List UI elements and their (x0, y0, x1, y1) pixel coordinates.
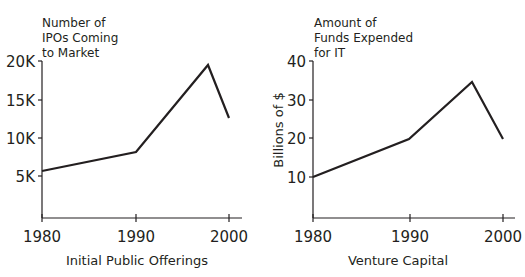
vc-xtick-1980: 1980 (294, 228, 332, 246)
ipo-chart: Number of IPOs Coming to Market 20K 15K … (6, 16, 248, 268)
vc-ytick-20: 20 (287, 130, 306, 148)
vc-data-line (313, 82, 503, 177)
ipo-xtick-1990: 1990 (117, 228, 155, 246)
ipo-ytick-20k: 20K (6, 53, 36, 71)
vc-xtick-1990: 1990 (391, 228, 429, 246)
ipo-y-ticks: 20K 15K 10K 5K (6, 53, 42, 186)
vc-chart-title-line-1: Amount of (314, 16, 377, 30)
vc-x-ticks: 1980 1990 2000 (294, 214, 522, 246)
vc-y-ticks: 40 30 20 10 (287, 53, 313, 187)
ipo-ytick-5k: 5K (16, 168, 37, 186)
vc-y-axis-label: Billions of $ (271, 92, 286, 167)
ipo-x-axis-label: Initial Public Offerings (66, 253, 208, 268)
vc-chart-title-line-2: Funds Expended (314, 31, 413, 45)
ipo-x-ticks: 1980 1990 2000 (23, 214, 248, 246)
vc-ytick-10: 10 (287, 169, 306, 187)
ipo-chart-title-line-3: to Market (42, 46, 99, 60)
charts-canvas: Number of IPOs Coming to Market 20K 15K … (0, 0, 525, 277)
vc-xtick-2000: 2000 (484, 228, 522, 246)
ipo-chart-title-line-2: IPOs Coming (42, 31, 118, 45)
ipo-ytick-10k: 10K (6, 130, 36, 148)
vc-chart: Amount of Funds Expended for IT 40 30 20… (271, 16, 522, 268)
ipo-ytick-15k: 15K (6, 92, 36, 110)
ipo-xtick-2000: 2000 (210, 228, 248, 246)
ipo-chart-title-line-1: Number of (42, 16, 106, 30)
vc-ytick-40: 40 (287, 53, 306, 71)
vc-ytick-30: 30 (287, 92, 306, 110)
vc-x-axis-label: Venture Capital (348, 253, 448, 268)
ipo-data-line (42, 65, 229, 171)
vc-chart-title-line-3: for IT (314, 46, 346, 60)
ipo-xtick-1980: 1980 (23, 228, 61, 246)
